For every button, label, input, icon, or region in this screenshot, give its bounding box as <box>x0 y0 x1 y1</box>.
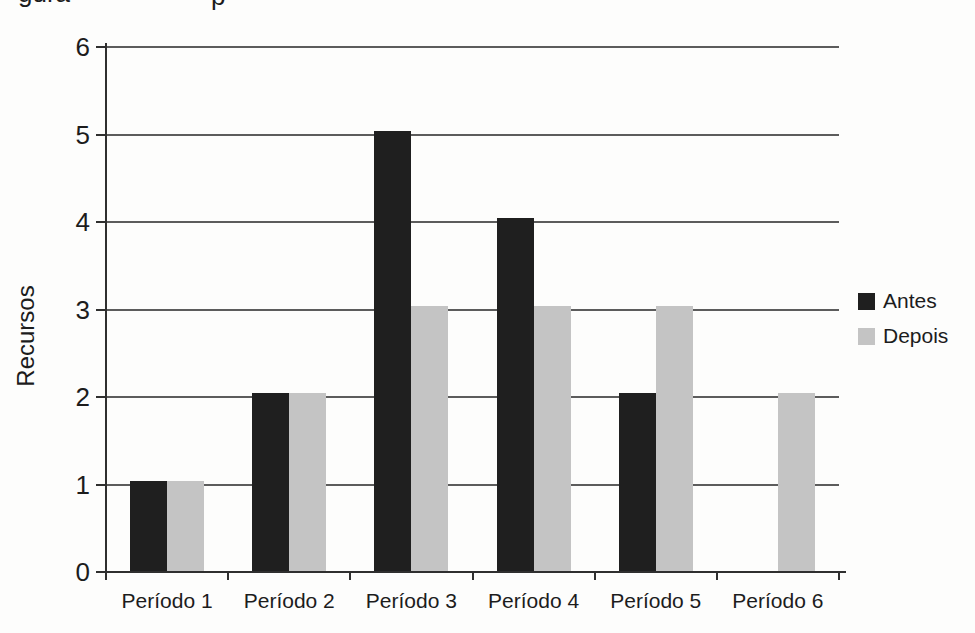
legend-swatch-antes <box>858 293 875 310</box>
y-tick-label-0: 0 <box>46 557 90 587</box>
x-category-label-3: Período 3 <box>349 588 473 614</box>
bar-antes-3 <box>374 131 411 573</box>
x-category-label-6: Período 6 <box>716 588 840 614</box>
legend-item-depois: Depois <box>858 325 948 347</box>
x-tick-1 <box>227 572 229 580</box>
bar-depois-4 <box>534 306 571 573</box>
bar-antes-5 <box>619 393 656 572</box>
gridline-y4 <box>106 221 839 223</box>
x-tick-5 <box>716 572 718 580</box>
y-tick-label-2: 2 <box>46 382 90 412</box>
y-tick-label-3: 3 <box>46 295 90 325</box>
gridline-y2 <box>106 396 839 398</box>
x-tick-0 <box>105 572 107 580</box>
x-category-label-4: Período 4 <box>472 588 596 614</box>
x-category-label-5: Período 5 <box>594 588 718 614</box>
y-tick-label-5: 5 <box>46 120 90 150</box>
bar-antes-2 <box>252 393 289 572</box>
scanned-chart-page: gura p Recursos 0123456 Período 1Período… <box>0 0 975 633</box>
x-category-label-2: Período 2 <box>227 588 351 614</box>
bar-depois-1 <box>167 481 204 573</box>
x-category-label-1: Período 1 <box>105 588 229 614</box>
y-tick-label-1: 1 <box>46 470 90 500</box>
gridline-y5 <box>106 134 839 136</box>
bar-depois-2 <box>289 393 326 572</box>
y-axis-line <box>105 43 107 579</box>
x-tick-4 <box>594 572 596 580</box>
y-tick-2 <box>96 396 106 398</box>
gridline-y1 <box>106 484 839 486</box>
y-tick-label-6: 6 <box>46 32 90 62</box>
legend-label-depois: Depois <box>883 325 948 347</box>
y-tick-6 <box>96 46 106 48</box>
bar-depois-3 <box>411 306 448 573</box>
bar-antes-1 <box>130 481 167 573</box>
x-tick-3 <box>472 572 474 580</box>
bar-depois-6 <box>778 393 815 572</box>
y-tick-1 <box>96 484 106 486</box>
y-tick-5 <box>96 134 106 136</box>
gridline-y3 <box>106 309 839 311</box>
y-tick-label-4: 4 <box>46 207 90 237</box>
bar-chart: Recursos 0123456 Período 1Período 2Perío… <box>0 0 975 633</box>
legend-swatch-depois <box>858 328 875 345</box>
legend-label-antes: Antes <box>883 290 937 312</box>
legend: AntesDepois <box>858 290 948 347</box>
y-tick-3 <box>96 309 106 311</box>
y-axis-title: Recursos <box>12 285 40 386</box>
x-tick-6 <box>838 572 840 580</box>
bar-antes-4 <box>497 218 534 572</box>
bar-depois-5 <box>656 306 693 573</box>
y-tick-4 <box>96 221 106 223</box>
gridline-y6 <box>106 46 839 48</box>
x-tick-2 <box>349 572 351 580</box>
legend-item-antes: Antes <box>858 290 948 312</box>
